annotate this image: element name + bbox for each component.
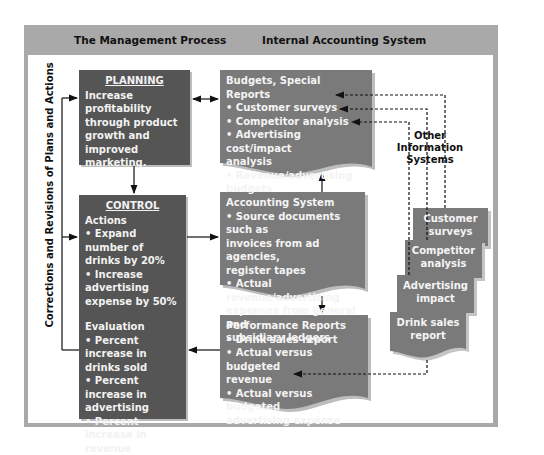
doc-label: Customer (413, 212, 488, 225)
action-line: expense by 50% (85, 295, 180, 309)
budgets-line: analysis (226, 155, 366, 169)
budgets-line: • Customer surveys (226, 101, 366, 115)
budgets-title: Budgets, Special Reports (226, 74, 366, 101)
performance-line: • Drink sales report (226, 333, 362, 347)
drink-sales-report-document: Drink salesreport (390, 312, 466, 362)
performance-title: Performance Reports (226, 319, 362, 333)
doc-label: Advertising (397, 279, 474, 292)
budgets-document: Budgets, Special Reports • Customer surv… (220, 70, 372, 180)
other-information-systems-label: Other Information Systems (380, 130, 480, 166)
performance-reports-document: Performance Reports • Drink sales report… (220, 315, 368, 415)
competitor-analysis-document: Competitoranalysis (405, 240, 482, 280)
control-box: CONTROL Actions • Expand number of drink… (79, 195, 186, 419)
doc-label: surveys (413, 225, 488, 238)
header-management-process: The Management Process (74, 34, 226, 46)
doc-label: Competitor (405, 244, 482, 257)
budgets-line: • Advertising cost/impact (226, 128, 366, 155)
evaluation-heading: Evaluation (85, 320, 180, 334)
planning-line: through product (85, 116, 184, 130)
evaluation-line: • Percent increase in (85, 334, 180, 361)
accounting-line: register tapes (226, 264, 359, 278)
action-line: • Increase advertising (85, 268, 180, 295)
budgets-line: • Competitor analysis (226, 115, 366, 129)
doc-label: analysis (405, 257, 482, 270)
accounting-line: • Source documents such as (226, 210, 359, 237)
planning-line: Increase profitability (85, 89, 184, 116)
performance-line: • Actual versus budgeted (226, 387, 362, 414)
evaluation-line: • Percent increase in (85, 415, 180, 442)
planning-line: growth and improved (85, 129, 184, 156)
control-title: CONTROL (85, 199, 180, 213)
evaluation-line: revenue (85, 442, 180, 455)
accounting-title: Accounting System (226, 196, 359, 210)
evaluation-line: advertising (85, 401, 180, 415)
evaluation-line: • Percent increase in (85, 374, 180, 401)
action-line: • Expand number of (85, 227, 180, 254)
budgets-line: • Revenue/advertising (226, 169, 366, 183)
other-systems-title: Other Information (380, 130, 480, 154)
accounting-line: • Actual revenue/advertising (226, 277, 359, 304)
doc-label: report (390, 329, 466, 342)
actions-heading: Actions (85, 214, 180, 228)
side-label-corrections: Corrections and Revisions of Plans and A… (44, 120, 55, 328)
planning-line: marketing. (85, 156, 184, 170)
budgets-line: budgets (226, 182, 366, 196)
performance-line: advertising expense (226, 414, 362, 428)
other-systems-title: Systems (380, 154, 480, 166)
action-line: drinks by 20% (85, 254, 180, 268)
accounting-line: invoices from ad agencies, (226, 237, 359, 264)
accounting-system-document: Accounting System • Source documents suc… (220, 192, 365, 302)
performance-line: • Actual versus budgeted (226, 346, 362, 373)
header-internal-accounting: Internal Accounting System (262, 34, 426, 46)
doc-label: Drink sales (390, 316, 466, 329)
evaluation-line: drinks sold (85, 361, 180, 375)
planning-title: PLANNING (85, 74, 184, 88)
performance-line: revenue (226, 373, 362, 387)
doc-label: impact (397, 292, 474, 305)
advertising-impact-document: Advertisingimpact (397, 275, 474, 315)
planning-box: PLANNING Increase profitability through … (79, 70, 190, 165)
